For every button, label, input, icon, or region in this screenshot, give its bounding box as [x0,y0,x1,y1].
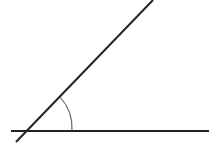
angle-diagram [0,0,218,159]
angle-arc [60,97,72,131]
inclined-ray [16,0,153,142]
